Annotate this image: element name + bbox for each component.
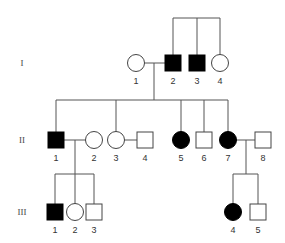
individual-number: 5 bbox=[255, 225, 260, 235]
individual-II-8: 8 bbox=[255, 132, 271, 163]
unaffected-male-square-icon bbox=[196, 132, 212, 148]
individual-II-1: 1 bbox=[48, 132, 64, 163]
affected-male-square-icon bbox=[48, 132, 64, 148]
individual-II-5: 5 bbox=[173, 132, 190, 164]
individual-number: 7 bbox=[225, 153, 230, 163]
individual-number: 1 bbox=[53, 153, 58, 163]
individual-number: 3 bbox=[194, 76, 199, 86]
individual-II-3: 3 bbox=[108, 132, 125, 164]
affected-male-square-icon bbox=[47, 204, 63, 220]
individuals: 12341234567812345 bbox=[47, 55, 271, 236]
generation-labels: I II III bbox=[18, 58, 27, 217]
individual-number: 1 bbox=[133, 76, 138, 86]
individual-number: 4 bbox=[230, 225, 235, 235]
individual-number: 3 bbox=[91, 225, 96, 235]
individual-I-4: 4 bbox=[212, 55, 229, 87]
unaffected-female-circle-icon bbox=[67, 204, 84, 221]
individual-II-6: 6 bbox=[196, 132, 212, 163]
individual-number: 2 bbox=[170, 76, 175, 86]
affected-female-circle-icon bbox=[225, 204, 242, 221]
individual-II-2: 2 bbox=[86, 132, 103, 164]
sibship-line-gen1 bbox=[173, 18, 220, 55]
individual-II-4: 4 bbox=[137, 132, 153, 163]
individual-number: 4 bbox=[217, 76, 222, 86]
connector-lines bbox=[55, 18, 258, 204]
affected-male-square-icon bbox=[165, 55, 181, 71]
unaffected-female-circle-icon bbox=[86, 132, 103, 149]
individual-I-3: 3 bbox=[189, 55, 205, 86]
affected-female-circle-icon bbox=[220, 132, 237, 149]
affected-male-square-icon bbox=[189, 55, 205, 71]
individual-number: 1 bbox=[52, 225, 57, 235]
generation-label-III: III bbox=[18, 207, 27, 217]
individual-number: 2 bbox=[72, 225, 77, 235]
pedigree-chart: I II III 12341234567812345 bbox=[0, 0, 285, 243]
individual-number: 6 bbox=[201, 153, 206, 163]
individual-I-1: 1 bbox=[128, 55, 145, 87]
unaffected-male-square-icon bbox=[255, 132, 271, 148]
individual-III-1: 1 bbox=[47, 204, 63, 235]
individual-III-5: 5 bbox=[250, 204, 266, 235]
sibship-line-gen3-right bbox=[233, 174, 258, 204]
individual-number: 8 bbox=[260, 153, 265, 163]
generation-label-II: II bbox=[19, 135, 25, 145]
individual-number: 2 bbox=[91, 153, 96, 163]
individual-number: 4 bbox=[142, 153, 147, 163]
unaffected-female-circle-icon bbox=[212, 55, 229, 72]
unaffected-female-circle-icon bbox=[128, 55, 145, 72]
individual-II-7: 7 bbox=[220, 132, 237, 164]
individual-I-2: 2 bbox=[165, 55, 181, 86]
individual-III-2: 2 bbox=[67, 204, 84, 236]
sibship-line-gen2 bbox=[56, 100, 228, 132]
unaffected-male-square-icon bbox=[250, 204, 266, 220]
individual-III-4: 4 bbox=[225, 204, 242, 236]
unaffected-male-square-icon bbox=[86, 204, 102, 220]
unaffected-female-circle-icon bbox=[108, 132, 125, 149]
generation-label-I: I bbox=[21, 58, 24, 68]
individual-number: 3 bbox=[113, 153, 118, 163]
sibship-line-gen3-left bbox=[55, 174, 94, 204]
individual-III-3: 3 bbox=[86, 204, 102, 235]
individual-number: 5 bbox=[178, 153, 183, 163]
unaffected-male-square-icon bbox=[137, 132, 153, 148]
pedigree-svg: I II III 12341234567812345 bbox=[0, 0, 285, 243]
affected-female-circle-icon bbox=[173, 132, 190, 149]
